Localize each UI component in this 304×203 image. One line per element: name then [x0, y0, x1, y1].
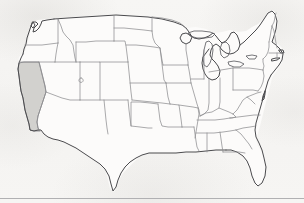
us-map-figure: [0, 0, 304, 203]
us-states-map: [0, 0, 304, 203]
